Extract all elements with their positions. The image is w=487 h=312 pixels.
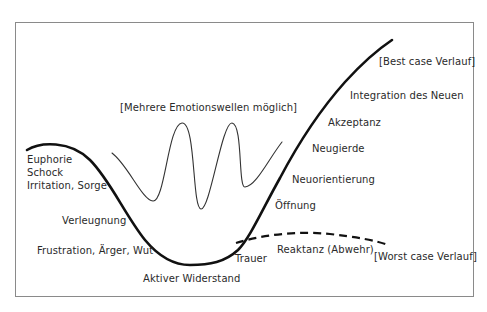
- waves-note-label: [Mehrere Emotionswellen möglich]: [120, 102, 297, 114]
- stage-irritation-label: Irritation, Sorge: [27, 180, 107, 192]
- stage-neuorientierung-label: Neuorientierung: [292, 174, 375, 186]
- stage-integration-label: Integration des Neuen: [350, 90, 464, 102]
- curves-layer: [0, 0, 487, 312]
- change-curve-diagram: [Mehrere Emotionswellen möglich] [Best c…: [0, 0, 487, 312]
- emotion-waves-curve: [112, 123, 282, 209]
- stage-reaktanz-label: Reaktanz (Abwehr): [277, 244, 374, 256]
- stage-trauer-label: Trauer: [235, 253, 267, 265]
- stage-schock-label: Schock: [27, 167, 63, 179]
- stage-frustration-label: Frustration, Ärger, Wut: [37, 245, 153, 257]
- stage-widerstand-label: Aktiver Widerstand: [143, 273, 241, 285]
- worst-case-label: [Worst case Verlauf]: [374, 251, 477, 263]
- stage-euphorie-label: Euphorie: [27, 154, 72, 166]
- best-case-label: [Best case Verlauf]: [379, 56, 475, 68]
- stage-verleugnung-label: Verleugnung: [62, 215, 126, 227]
- stage-akzeptanz-label: Akzeptanz: [328, 117, 381, 129]
- stage-oeffnung-label: Öffnung: [275, 200, 316, 212]
- stage-neugierde-label: Neugierde: [312, 143, 365, 155]
